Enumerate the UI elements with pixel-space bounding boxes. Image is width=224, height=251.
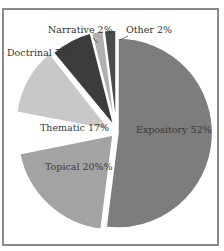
label-topical: Topical 20%% xyxy=(45,161,113,172)
label-other: Other 2% xyxy=(126,24,172,35)
slice-topical xyxy=(20,135,113,229)
label-expository: Expository 52% xyxy=(136,124,212,135)
pie-chart: Narrative 2% Other 2% Doctrinal 7% Thema… xyxy=(0,0,224,251)
label-doctrinal: Doctrinal 7% xyxy=(7,47,70,58)
label-thematic: Thematic 17% xyxy=(40,122,109,133)
label-narrative: Narrative 2% xyxy=(48,24,113,35)
